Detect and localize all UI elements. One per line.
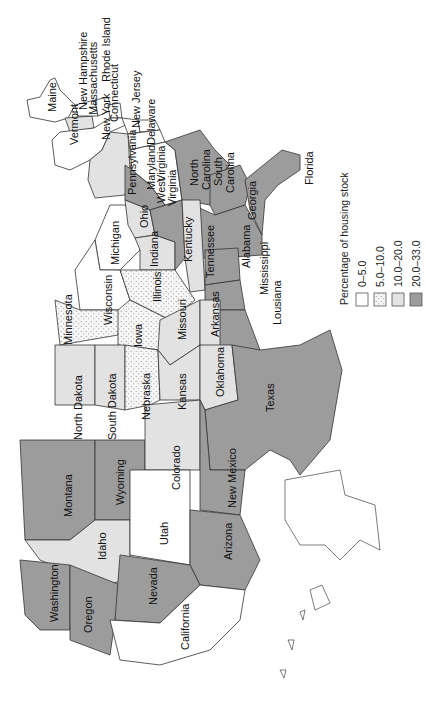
mexico-outline bbox=[285, 470, 380, 560]
label-mississippi: Mississippi bbox=[258, 242, 270, 295]
label-wyoming: Wyoming bbox=[114, 459, 126, 505]
label-michigan: Michigan bbox=[109, 221, 121, 265]
label-new-mexico: New Mexico bbox=[226, 448, 238, 508]
label-nevada: Nevada bbox=[147, 566, 159, 605]
label-new-jersey: New Jersey bbox=[130, 70, 142, 128]
island-small-3 bbox=[280, 670, 286, 678]
label-south: South bbox=[212, 157, 224, 186]
state-washington bbox=[20, 560, 70, 630]
legend-swatch-3 bbox=[410, 293, 422, 306]
label-arizona: Arizona bbox=[222, 522, 234, 560]
label-south-carolina: Carolina bbox=[224, 151, 236, 193]
label-new-york: New York bbox=[100, 93, 112, 140]
label-south-dakota: South Dakota bbox=[106, 372, 118, 440]
label-tennessee: Tennessee bbox=[204, 225, 216, 278]
island-cuba bbox=[310, 585, 330, 610]
label-washington: Washington bbox=[48, 564, 60, 622]
label-ohio: Ohio bbox=[138, 205, 150, 228]
label-idaho: Idaho bbox=[96, 532, 108, 560]
legend-label-3: 20.0–33.0 bbox=[410, 240, 422, 287]
island-small-1 bbox=[300, 610, 305, 620]
label-nebraska: Nebraska bbox=[140, 372, 152, 420]
label-missouri: Missouri bbox=[176, 299, 188, 340]
label-iowa: Iowa bbox=[132, 323, 144, 347]
label-louisiana: Lousiana bbox=[271, 279, 283, 325]
label-north: North bbox=[188, 159, 200, 186]
legend-label-0: 0–5.0 bbox=[356, 261, 368, 287]
label-utah: Utah bbox=[158, 522, 170, 545]
label-kentucky: Kentucky bbox=[182, 216, 194, 262]
legend-title: Percentage of housing stock bbox=[338, 172, 350, 305]
label-minnesota: Minnesota bbox=[62, 293, 74, 345]
label-georgia: Georgia bbox=[246, 180, 258, 220]
label-arkansas: Arkansas bbox=[209, 291, 221, 337]
label-delaware: Delaware bbox=[145, 99, 157, 145]
label-montana: Montana bbox=[62, 473, 74, 517]
label-west-virginia: Virginia bbox=[166, 169, 178, 206]
label-california: California bbox=[179, 603, 191, 650]
legend-swatch-1 bbox=[374, 293, 386, 306]
label-oklahoma: Oklahoma bbox=[214, 346, 226, 397]
label-oregon: Oregon bbox=[82, 596, 94, 633]
label-colorado: Colorado bbox=[170, 445, 182, 490]
label-texas: Texas bbox=[264, 383, 276, 412]
legend-swatch-0 bbox=[356, 293, 368, 306]
label-massachusetts: Massachusetts bbox=[87, 41, 99, 115]
label-illinois: Illinois bbox=[151, 271, 163, 302]
legend-swatch-2 bbox=[392, 293, 404, 306]
label-north-dakota: North Dakota bbox=[72, 374, 84, 440]
label-north-carolina: Carolina bbox=[200, 148, 212, 190]
legend: Percentage of housing stock 0–5.0 5.0–10… bbox=[338, 172, 422, 306]
label-florida: Florida bbox=[303, 150, 315, 185]
legend-label-2: 10.0–20.0 bbox=[392, 240, 404, 287]
label-kansas: Kansas bbox=[176, 373, 188, 410]
label-pennsylvania: Pennsylvania bbox=[126, 129, 138, 195]
label-alabama: Alabama bbox=[240, 224, 252, 268]
label-indiana: Indiana bbox=[148, 230, 160, 267]
label-maine: Maine bbox=[46, 82, 58, 112]
label-wisconsin: Wisconsin bbox=[102, 275, 114, 325]
state-montana bbox=[20, 440, 95, 540]
choropleth-map: Maine Vermont New Hampshire Massachusett… bbox=[0, 0, 426, 707]
legend-label-1: 5.0–10.0 bbox=[374, 246, 386, 287]
island-small-2 bbox=[288, 640, 294, 650]
